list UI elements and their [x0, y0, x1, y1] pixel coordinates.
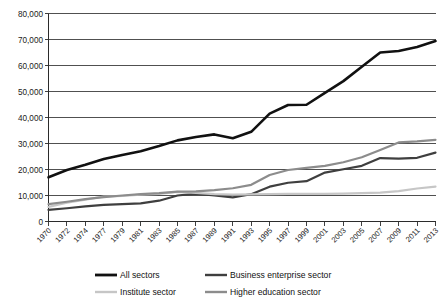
y-axis-tick-label: 80,000 — [18, 10, 43, 19]
chart-legend: All sectorsBusiness enterprise sectorIns… — [95, 270, 331, 297]
x-axis-tick-label: 1987 — [182, 226, 200, 244]
x-axis-tick-label: 1995 — [256, 226, 274, 244]
legend-item-label: All sectors — [120, 270, 160, 280]
x-axis-tick-label: 2013 — [422, 226, 440, 244]
y-axis-tick-label: 0 — [38, 218, 43, 227]
x-axis-tick-label: 1970 — [35, 226, 53, 244]
y-axis-tick-label: 20,000 — [18, 166, 43, 175]
y-axis-tick-label: 50,000 — [18, 88, 43, 97]
x-axis-tick-label: 2007 — [367, 226, 385, 244]
x-axis-tick-label: 2005 — [348, 226, 366, 244]
x-axis-tick-label: 2003 — [330, 226, 348, 244]
legend-item[interactable]: Institute sector — [95, 287, 176, 297]
y-axis-tick-label: 10,000 — [18, 192, 43, 201]
legend-item[interactable]: All sectors — [95, 270, 160, 280]
x-axis-tick-labels: 1970197219741977197919811983198519871989… — [35, 222, 440, 245]
x-axis-tick-label: 1997 — [274, 226, 292, 244]
x-axis-tick-label: 1977 — [90, 226, 108, 244]
gridlines — [49, 14, 436, 222]
x-axis-tick-label: 2011 — [404, 226, 422, 244]
y-axis-tick-label: 40,000 — [18, 114, 43, 123]
line-chart: 80,00070,00060,00050,00040,00030,00020,0… — [0, 0, 443, 308]
y-axis-tick-labels: 80,00070,00060,00050,00040,00030,00020,0… — [18, 10, 49, 227]
x-axis-tick-label: 1993 — [238, 226, 256, 244]
x-axis-tick-label: 1999 — [293, 226, 311, 244]
x-axis-tick-label: 1981 — [127, 226, 145, 244]
x-axis-tick-label: 1979 — [109, 226, 127, 244]
data-series-group — [49, 41, 436, 210]
x-axis-tick-label: 1985 — [164, 226, 182, 244]
legend-item[interactable]: Business enterprise sector — [205, 270, 331, 280]
x-axis-tick-label: 1974 — [72, 226, 90, 244]
y-axis-tick-label: 30,000 — [18, 140, 43, 149]
x-axis-tick-label: 2009 — [385, 226, 403, 244]
x-axis-tick-label: 1989 — [201, 226, 219, 244]
legend-item-label: Business enterprise sector — [230, 270, 331, 280]
x-axis-tick-label: 1991 — [219, 226, 237, 244]
legend-item[interactable]: Higher education sector — [205, 287, 321, 297]
y-axis-tick-label: 70,000 — [18, 36, 43, 45]
y-axis-tick-label: 60,000 — [18, 62, 43, 71]
x-axis-tick-label: 1983 — [145, 226, 163, 244]
x-axis-tick-label: 1972 — [53, 226, 71, 244]
x-axis-tick-label: 2001 — [311, 226, 329, 244]
legend-item-label: Institute sector — [120, 287, 176, 297]
legend-item-label: Higher education sector — [230, 287, 321, 297]
series-line-1 — [49, 153, 436, 210]
series-line-0 — [49, 41, 436, 177]
chart-canvas: 80,00070,00060,00050,00040,00030,00020,0… — [0, 0, 443, 308]
